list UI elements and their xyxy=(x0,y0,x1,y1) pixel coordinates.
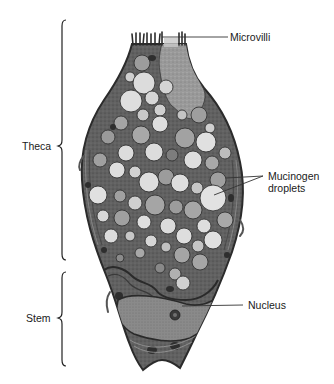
cell-body xyxy=(79,32,243,370)
label-stem: Stem xyxy=(26,312,51,324)
label-theca: Theca xyxy=(22,140,51,152)
label-microvilli: Microvilli xyxy=(230,31,270,43)
label-mucinogen-droplets: Mucinogen droplets xyxy=(268,170,330,194)
theca-bracket xyxy=(58,20,66,260)
stem-bracket xyxy=(58,272,66,366)
microvilli-secretion xyxy=(164,38,178,47)
label-nucleus: Nucleus xyxy=(248,299,286,311)
nucleus-body xyxy=(117,296,222,341)
